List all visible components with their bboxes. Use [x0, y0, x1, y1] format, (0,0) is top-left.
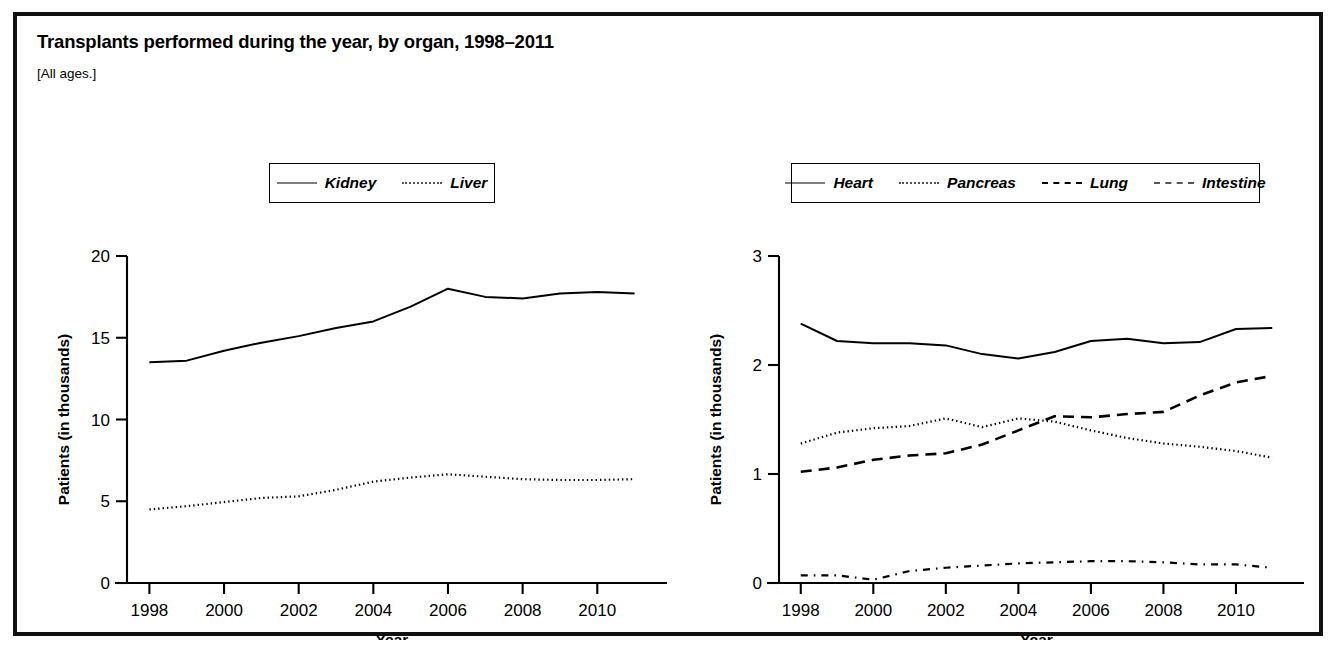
svg-text:1: 1	[753, 465, 762, 484]
svg-text:2000: 2000	[205, 601, 243, 620]
figure-frame: Transplants performed during the year, b…	[13, 12, 1323, 636]
chart-panel-right: Heart Pancreas Lung Intestine 0123199820…	[672, 16, 1323, 640]
svg-text:2002: 2002	[927, 601, 965, 620]
svg-text:Year: Year	[376, 631, 409, 640]
svg-text:2006: 2006	[1072, 601, 1110, 620]
svg-text:1998: 1998	[782, 601, 820, 620]
svg-text:Patients (in thousands): Patients (in thousands)	[55, 334, 72, 505]
svg-text:2000: 2000	[854, 601, 892, 620]
svg-text:2002: 2002	[280, 601, 318, 620]
svg-text:10: 10	[91, 411, 110, 430]
svg-text:15: 15	[91, 329, 110, 348]
svg-text:20: 20	[91, 247, 110, 266]
svg-text:1998: 1998	[130, 601, 168, 620]
svg-text:2008: 2008	[504, 601, 542, 620]
svg-text:5: 5	[101, 492, 110, 511]
svg-text:2004: 2004	[999, 601, 1037, 620]
svg-text:Year: Year	[1020, 631, 1053, 640]
chart-panel-left: Kidney Liver 051015201998200020022004200…	[17, 16, 672, 640]
svg-text:0: 0	[753, 574, 762, 593]
svg-text:0: 0	[101, 574, 110, 593]
svg-text:Patients (in thousands): Patients (in thousands)	[707, 334, 724, 505]
svg-text:2004: 2004	[354, 601, 392, 620]
svg-text:2006: 2006	[429, 601, 467, 620]
svg-text:2010: 2010	[578, 601, 616, 620]
svg-text:2008: 2008	[1145, 601, 1183, 620]
chart-left-canvas: 051015201998200020022004200620082010Year…	[17, 16, 672, 640]
svg-text:2010: 2010	[1217, 601, 1255, 620]
svg-text:3: 3	[753, 247, 762, 266]
svg-text:2: 2	[753, 356, 762, 375]
chart-right-canvas: 01231998200020022004200620082010YearPati…	[672, 16, 1323, 640]
